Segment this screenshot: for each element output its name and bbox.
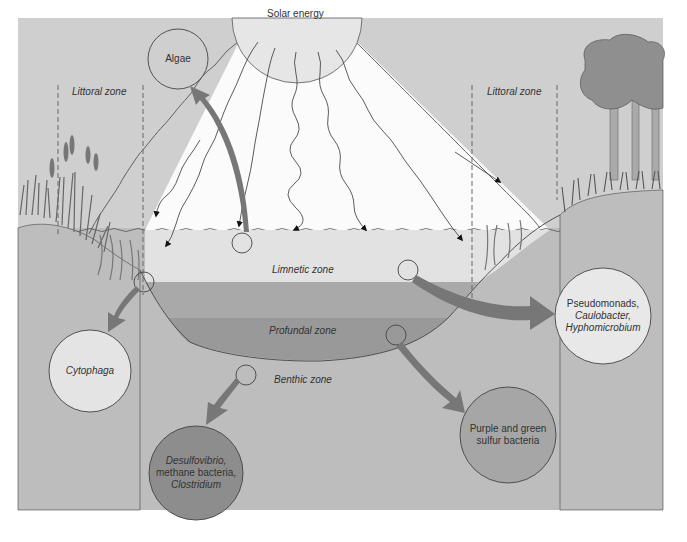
limnetic-zone-label: Limnetic zone <box>272 264 334 276</box>
benthic-zone-label: Benthic zone <box>274 374 332 386</box>
lake-ecosystem-diagram: Solar energy Littoral zone Littoral zone… <box>0 0 687 542</box>
pseudomonads-label: Pseudomonads, Caulobacter, Hyphomicrobiu… <box>555 268 651 364</box>
algae-label: Algae <box>148 29 208 89</box>
littoral-zone-right-label: Littoral zone <box>487 86 541 98</box>
limnetic-zone-area <box>145 230 550 282</box>
profundal-zone-label: Profundal zone <box>269 325 336 337</box>
sun-label: Solar energy <box>267 8 324 20</box>
desulfovibrio-label: Desulfovibrio, methane bacteria, Clostri… <box>149 426 243 520</box>
littoral-zone-left-label: Littoral zone <box>72 86 126 98</box>
cytophaga-label: Cytophaga <box>49 330 131 412</box>
purple-green-label: Purple and green sulfur bacteria <box>460 387 556 483</box>
